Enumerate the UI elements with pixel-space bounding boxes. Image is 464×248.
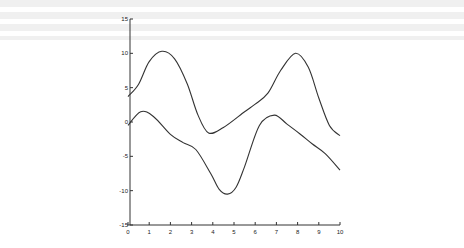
x-tick-label: 0 <box>126 229 130 235</box>
x-tick-label: 9 <box>317 229 321 235</box>
y-tick-label: 5 <box>125 85 129 91</box>
y-tick-label: 10 <box>121 50 128 56</box>
y-tick-label: -10 <box>119 188 128 194</box>
y-tick-label: 15 <box>121 16 128 22</box>
y-tick-label: -15 <box>119 222 128 228</box>
lower-curve-line <box>128 111 340 194</box>
x-tick-label: 4 <box>211 229 215 235</box>
y-tick-label: -5 <box>123 153 129 159</box>
chart-series <box>128 51 340 194</box>
x-tick-label: 10 <box>337 229 344 235</box>
x-tick-label: 5 <box>232 229 236 235</box>
x-tick-label: 2 <box>169 229 173 235</box>
x-tick-label: 7 <box>275 229 279 235</box>
x-tick-label: 6 <box>254 229 258 235</box>
x-tick-label: 1 <box>148 229 152 235</box>
x-axis-ticks: 012345678910 <box>126 222 344 235</box>
x-tick-label: 8 <box>296 229 300 235</box>
x-tick-label: 3 <box>190 229 194 235</box>
y-tick-label: 0 <box>125 119 129 125</box>
line-chart: 012345678910 151050-5-10-15 <box>0 0 464 248</box>
